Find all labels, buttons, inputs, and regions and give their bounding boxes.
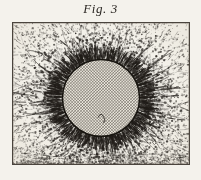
engraving-frame <box>12 22 190 165</box>
hatched-disc-icon <box>62 59 139 136</box>
radial-field-icon <box>13 23 189 164</box>
engraving-plate: Fig. 3 <box>0 0 201 180</box>
figure-caption: Fig. 3 <box>0 1 201 17</box>
